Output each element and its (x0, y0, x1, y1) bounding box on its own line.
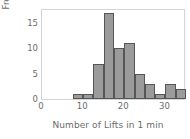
y-tick-label: 10 (20, 44, 38, 53)
y-axis-tick-labels: 051015 (14, 0, 38, 139)
histogram-figure: Frequency 051015 0102030 Number of Lifts… (0, 0, 190, 139)
histogram-bar (176, 89, 186, 99)
x-tick-label: 20 (113, 101, 133, 111)
y-tick-label: 15 (20, 19, 38, 28)
histogram-bar (104, 13, 114, 99)
x-tick-label: 10 (72, 101, 92, 111)
histogram-bar (114, 48, 124, 99)
histogram-bar (155, 94, 165, 99)
histogram-bar (124, 43, 134, 99)
x-tick-label: 0 (31, 101, 51, 111)
x-axis-title: Number of Lifts in 1 min (28, 120, 188, 130)
histogram-bar (73, 94, 83, 99)
y-tick-label: 5 (20, 70, 38, 79)
histogram-bar (83, 94, 93, 99)
x-tick-label: 30 (154, 101, 174, 111)
histogram-bar (93, 64, 103, 99)
y-axis-title: Frequency (1, 0, 13, 28)
x-axis-tick-labels: 0102030 (41, 101, 185, 113)
histogram-bar (165, 84, 175, 99)
histogram-bar (135, 74, 145, 99)
plot-area (41, 9, 185, 100)
histogram-bars (42, 10, 184, 99)
histogram-bar (145, 84, 155, 99)
